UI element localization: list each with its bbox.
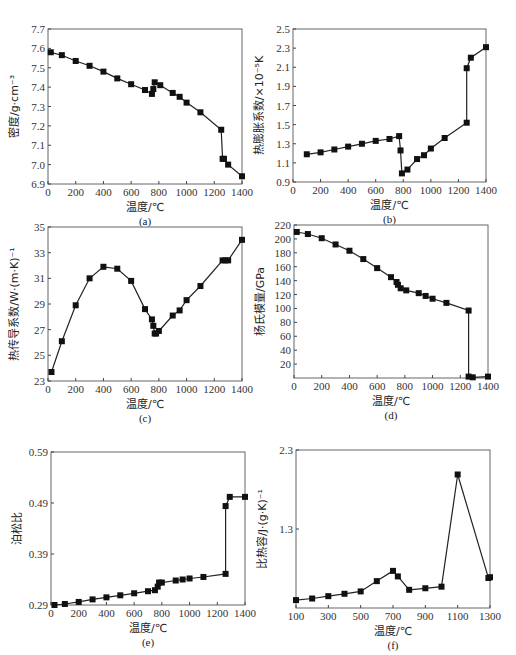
y-tick-label: 0.39 [29,548,49,560]
x-tick-label: 1400 [234,607,257,619]
plot-frame [51,452,245,605]
y-tick-label: 35 [34,221,46,233]
data-point [150,86,156,92]
x-tick-label: 100 [288,610,305,622]
y-tick-label: 1.7 [276,100,290,112]
data-point [62,601,68,607]
data-point [304,151,310,157]
data-point [177,94,183,100]
panel-label: (e) [142,636,155,649]
y-tick-label: 7.2 [31,120,45,132]
x-axis-label: 温度/℃ [129,621,167,635]
data-point [416,290,422,296]
data-point [197,109,203,115]
y-tick-label: 100 [275,302,292,314]
plot-frame [296,450,490,608]
data-point [374,578,380,584]
x-tick-label: 1200 [206,607,229,619]
data-point [145,588,151,594]
x-axis-label: 温度/℃ [126,200,164,214]
x-tick-label: 400 [340,184,357,196]
data-point [114,266,120,272]
x-tick-label: 1200 [447,184,470,196]
data-point [197,283,203,289]
x-tick-label: 200 [313,380,330,392]
data-point [87,275,93,281]
x-tick-label: 1000 [176,186,199,198]
chart-panel-e: 02004006008001000120014000.290.390.490.5… [10,446,257,649]
x-tick-label: 400 [95,186,112,198]
data-point [406,587,412,593]
x-tick-label: 1000 [176,383,199,395]
x-tick-label: 1400 [477,380,500,392]
data-point [51,602,57,608]
y-tick-label: 2.3 [279,444,293,456]
data-point [325,593,331,599]
y-tick-label: 33 [34,247,46,259]
series-line-youngs-modulus [297,232,488,377]
data-point [483,44,489,50]
data-point [390,568,396,574]
y-tick-label: 7.6 [31,42,45,54]
x-tick-label: 800 [151,186,168,198]
data-point [360,256,366,262]
data-point [90,596,96,602]
data-point [395,573,401,579]
data-point [76,599,82,605]
x-tick-label: 1400 [231,186,254,198]
data-point [404,167,410,173]
x-tick-label: 1200 [203,186,226,198]
data-point [319,235,325,241]
data-point [373,138,379,144]
data-point [114,75,120,81]
data-point [223,503,229,509]
data-point [223,571,229,577]
x-axis-label: 温度/℃ [374,624,412,638]
y-tick-label: 140 [275,275,292,287]
data-point [398,147,404,153]
data-point [374,265,380,271]
panel-label: (a) [139,215,152,228]
y-tick-label: 7.7 [31,23,45,35]
y-tick-label: 23 [34,375,46,387]
y-axis-label: 密度/g·cm⁻³ [7,75,21,138]
x-tick-label: 700 [385,610,402,622]
data-point [239,173,245,179]
data-point [225,257,231,263]
panel-label: (c) [139,412,152,425]
y-axis-label: 杨氏模量/GPa [253,267,267,336]
series-line-specific-heat [296,475,490,601]
data-point [73,58,79,64]
data-point [142,87,148,93]
x-tick-label: 600 [123,383,140,395]
data-point [443,300,449,306]
data-point [48,49,54,55]
y-tick-label: 1.3 [279,523,293,535]
x-tick-label: 800 [154,607,171,619]
data-point [387,136,393,142]
data-point [333,241,339,247]
data-point [468,55,474,61]
y-tick-label: 200 [275,233,292,245]
x-tick-label: 800 [151,383,168,395]
data-point [388,274,394,280]
data-point [342,591,348,597]
plot-frame [294,225,488,378]
data-point [470,374,476,380]
data-point [173,578,179,584]
x-tick-label: 500 [352,610,369,622]
x-tick-label: 600 [123,186,140,198]
x-tick-label: 0 [290,184,296,196]
y-tick-label: 6.9 [31,178,45,190]
data-point [221,156,227,162]
x-tick-label: 600 [369,380,386,392]
data-point [464,65,470,71]
data-point [396,133,402,139]
data-point [131,590,137,596]
plot-frame [48,29,242,184]
plot-frame [293,29,486,182]
y-axis-label: 泊松比 [10,512,24,545]
data-point [100,69,106,75]
y-tick-label: 1.5 [276,119,290,131]
data-point [100,264,106,270]
